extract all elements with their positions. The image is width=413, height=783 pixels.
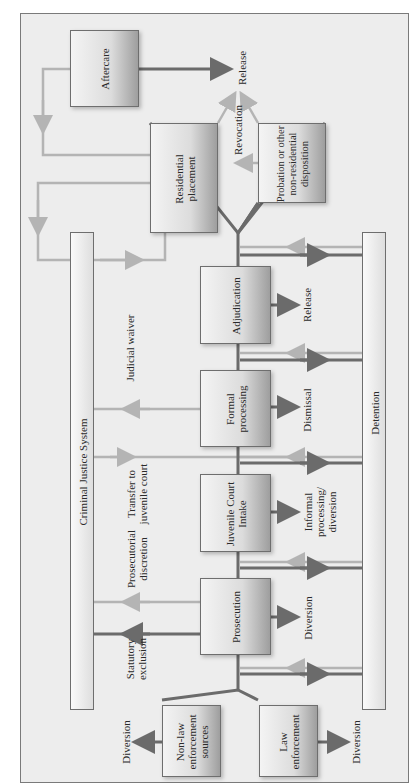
criminal-justice-system-bar: Criminal Justice System — [70, 232, 94, 710]
formal-processing-label: Formal processing — [224, 379, 248, 439]
aftercare-label: Aftercare — [99, 48, 111, 90]
diversion-prosecution-label: Diversion — [302, 596, 314, 639]
aftercare-box: Aftercare — [70, 30, 139, 107]
release-top-label: Release — [236, 51, 248, 85]
informal-processing-label: Informal processing/ diversion — [302, 481, 338, 543]
formal-processing-box: Formal processing — [200, 370, 271, 447]
probation-box: Probation or other non-residential dispo… — [258, 123, 326, 203]
detention-label: Detention — [369, 391, 381, 434]
prosecution-label: Prosecution — [230, 591, 242, 643]
diversion-law-label: Diversion — [350, 720, 362, 763]
adjudication-label: Adjudication — [230, 277, 242, 334]
dismissal-label: Dismissal — [301, 388, 313, 431]
non-law-enforcement-box: Non-law enforcement sources — [162, 705, 221, 777]
residential-placement-label: Residential placement — [173, 144, 197, 214]
juvenile-court-intake-box: Juvenile Court Intake — [200, 474, 271, 552]
release-adjudication-label: Release — [301, 288, 313, 322]
juvenile-court-intake-label: Juvenile Court Intake — [224, 479, 248, 549]
criminal-justice-system-label: Criminal Justice System — [77, 419, 89, 526]
residential-placement-box: Residential placement — [150, 123, 218, 233]
non-law-enforcement-label: Non-law enforcement sources — [174, 709, 210, 775]
revocation-label: Revocation — [232, 105, 244, 155]
law-enforcement-box: Law enforcement — [259, 705, 318, 777]
transfer-label: Transfer to juvenile court — [125, 459, 149, 529]
diversion-non-law-label: Diversion — [120, 720, 132, 763]
judicial-waiver-label: Judicial waiver — [124, 315, 136, 382]
adjudication-box: Adjudication — [200, 266, 271, 344]
detention-bar: Detention — [362, 232, 386, 710]
probation-label: Probation or other non-residential dispo… — [275, 125, 311, 203]
prosecutorial-discretion-label: Prosecutorial discretion — [125, 524, 149, 594]
statutory-exclusion-label: Statutory exclusion — [124, 629, 148, 689]
prosecution-box: Prosecution — [200, 578, 271, 655]
law-enforcement-label: Law enforcement — [277, 712, 301, 772]
